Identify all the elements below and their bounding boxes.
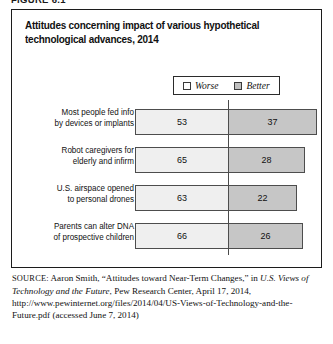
bar-value-better: 26 <box>260 231 270 241</box>
row-label: U.S. airspace opened to personal drones <box>28 183 134 204</box>
bar-value-better: 28 <box>261 155 271 165</box>
bar-better[interactable]: 28 <box>228 147 305 173</box>
source-text-part1: Aaron Smith, “Attitudes toward Near-Term… <box>49 273 260 283</box>
row-bars: 65 28 <box>135 147 305 173</box>
legend-item-better[interactable]: Better <box>234 81 269 91</box>
row-label-line2: to personal drones <box>67 194 134 204</box>
legend-swatch-worse-icon <box>183 82 191 90</box>
bar-worse[interactable]: 65 <box>135 147 228 173</box>
row-bars: 63 22 <box>135 185 297 211</box>
bar-value-worse: 66 <box>177 231 187 241</box>
figure-container: FIGURE 6.1 Attitudes concerning impact o… <box>0 0 333 344</box>
row-label-line2: elderly and infirm <box>73 156 134 166</box>
chart-row: Robot caregivers for elderly and infirm … <box>12 147 323 173</box>
bar-worse[interactable]: 53 <box>135 109 228 135</box>
plot-area: Most people fed info by devices or impla… <box>12 105 323 255</box>
legend-label-worse: Worse <box>195 81 218 91</box>
bar-better[interactable]: 26 <box>228 223 303 249</box>
row-label-line1: Most people fed info <box>62 107 134 117</box>
legend-label-better: Better <box>246 81 269 91</box>
row-label: Robot caregivers for elderly and infirm <box>28 145 134 166</box>
bar-better[interactable]: 37 <box>228 109 317 135</box>
row-label-line2: of prospective children <box>54 232 134 242</box>
row-label: Parents can alter DNA of prospective chi… <box>28 221 134 242</box>
bar-value-worse: 63 <box>177 193 187 203</box>
row-label-line1: U.S. airspace opened <box>57 183 134 193</box>
legend-swatch-better-icon <box>234 82 242 90</box>
row-bars: 66 26 <box>135 223 303 249</box>
row-label-line1: Parents can alter DNA <box>54 221 134 231</box>
row-label: Most people fed info by devices or impla… <box>28 107 134 128</box>
bar-value-worse: 53 <box>177 117 187 127</box>
figure-label: FIGURE 6.1 <box>11 0 66 3</box>
chart-frame: Attitudes concerning impact of various h… <box>11 9 322 268</box>
bar-worse[interactable]: 63 <box>135 185 228 211</box>
bar-value-worse: 65 <box>177 155 187 165</box>
source-kicker: SOURCE: <box>12 274 49 283</box>
legend-item-worse[interactable]: Worse <box>183 81 218 91</box>
bar-worse[interactable]: 66 <box>135 223 228 249</box>
chart-row: Most people fed info by devices or impla… <box>12 109 323 135</box>
chart-row: Parents can alter DNA of prospective chi… <box>12 223 323 249</box>
bar-value-better: 22 <box>257 193 267 203</box>
source-note: SOURCE: Aaron Smith, “Attitudes toward N… <box>12 272 321 321</box>
bar-better[interactable]: 22 <box>228 185 297 211</box>
chart-legend: Worse Better <box>173 76 280 95</box>
row-label-line2: by devices or implants <box>54 118 134 128</box>
row-label-line1: Robot caregivers for <box>62 145 134 155</box>
bar-value-better: 37 <box>267 117 277 127</box>
row-bars: 53 37 <box>135 109 317 135</box>
chart-row: U.S. airspace opened to personal drones … <box>12 185 323 211</box>
chart-title: Attitudes concerning impact of various h… <box>25 19 293 46</box>
